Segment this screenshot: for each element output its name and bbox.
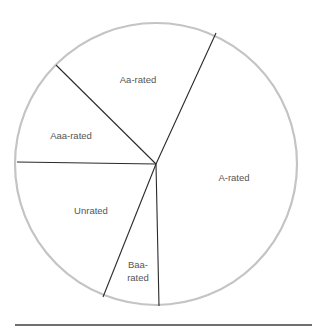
slice-label-a-rated: A-rated: [218, 172, 249, 183]
pie-chart: Aa-rated Aaa-rated A-rated Unrated Baa- …: [0, 0, 312, 327]
slice-label-baa-rated-line1: Baa-: [128, 259, 148, 270]
slice-label-aa-rated: Aa-rated: [120, 74, 156, 85]
bottom-rule: [15, 324, 312, 326]
slice-label-baa-rated-line2: rated: [127, 272, 149, 283]
slice-label-aaa-rated: Aaa-rated: [50, 130, 92, 141]
slice-label-unrated: Unrated: [74, 205, 108, 216]
